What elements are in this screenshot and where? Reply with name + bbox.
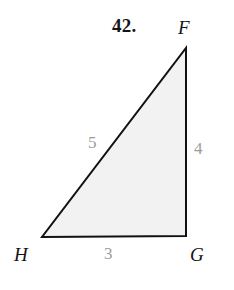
vertex-label-h: H — [14, 245, 28, 264]
side-length-hf: 5 — [88, 134, 97, 151]
triangle-shape — [42, 48, 186, 237]
figure-page: 42. F G H 5 4 3 — [0, 0, 234, 290]
problem-number: 42. — [112, 16, 136, 35]
side-length-fg: 4 — [194, 140, 203, 157]
vertex-label-f: F — [178, 18, 190, 37]
side-length-hg: 3 — [104, 245, 113, 262]
vertex-label-g: G — [190, 245, 204, 264]
